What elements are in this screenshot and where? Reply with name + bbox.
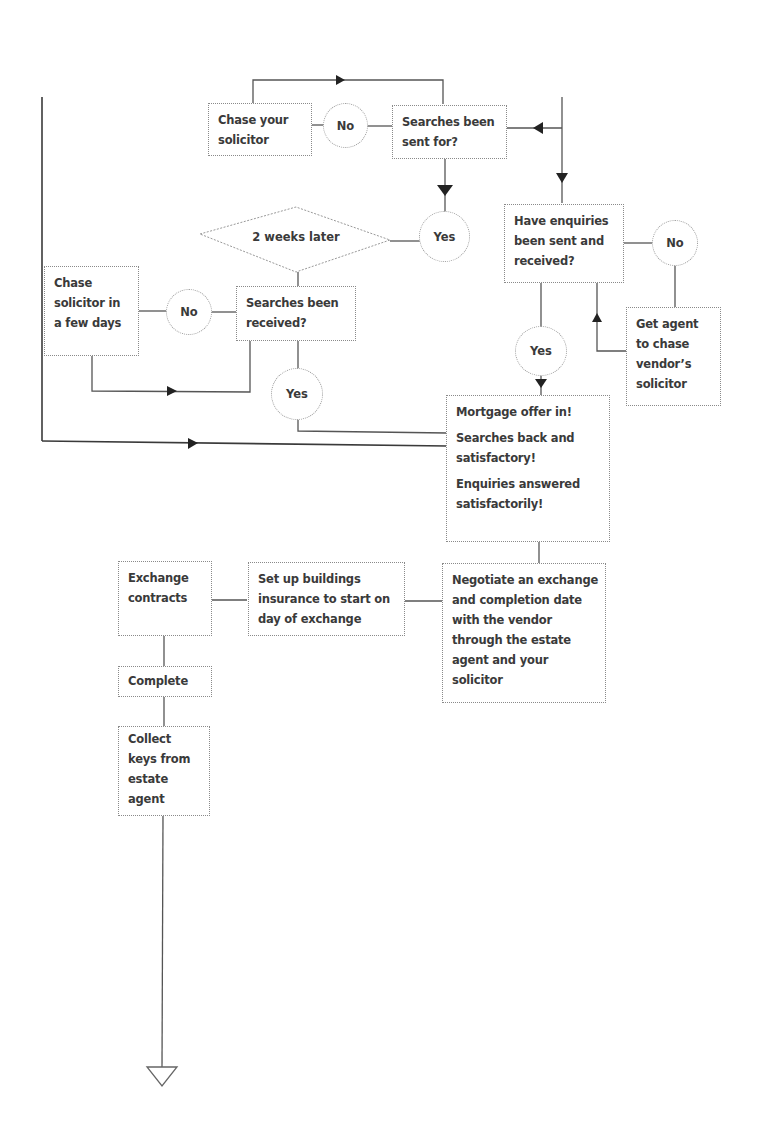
decision-yes-searches-received: Yes [271,368,323,420]
negotiate-dates-box: Negotiate an exchange and completion dat… [442,563,606,703]
node-text: Chase your [218,110,303,130]
decision-label: Yes [434,230,456,244]
buildings-insurance-box: Set up buildings insurance to start on d… [248,562,405,636]
node-text: with the vendor [452,610,597,630]
decision-yes-searches-sent: Yes [419,211,470,262]
collect-keys-box: Collect keys from estate agent [118,726,210,816]
arrow-up-icon [592,313,602,322]
node-text: Have enquiries [514,211,615,231]
node-text: Get agent [636,314,712,334]
decision-label: Yes [286,387,308,401]
chase-solicitor-few-days-box: Chase solicitor in a few days [44,266,139,356]
loop-top-line [253,80,443,104]
node-text: to chase [636,334,712,354]
arrow-down-icon [535,379,547,388]
summary-paragraph: Enquiries answered satisfactorily! [456,474,601,514]
node-text: solicitor in [54,293,130,313]
node-text: Set up buildings [258,569,396,589]
node-text: estate [128,769,201,789]
status-summary-box: Mortgage offer in! Searches back and sat… [446,395,610,542]
node-text: solicitor [218,130,303,150]
node-text: a few days [54,313,130,333]
node-text: Mortgage offer in! [456,402,601,422]
decision-no-searches-sent: No [323,103,368,148]
node-text: satisfactorily! [456,494,601,514]
decision-no-enquiries: No [652,220,698,266]
node-text: Chase [54,273,130,293]
node-text: agent [128,789,201,809]
complete-box: Complete [118,666,212,697]
node-text: vendor’s [636,354,712,374]
node-text: received? [246,313,347,333]
arrow-down-icon [556,173,568,183]
connector [162,816,163,1068]
flowchart-canvas: Chase your solicitor No Searches been se… [0,0,777,1143]
node-text: received? [514,251,615,271]
arrow-right-icon [167,386,177,396]
decision-label: No [666,236,684,250]
node-text: satisfactory! [456,448,601,468]
enquiries-sent-received-box: Have enquiries been sent and received? [504,204,624,283]
decision-no-searches-received: No [166,289,212,335]
decision-label: No [180,305,198,319]
chase-your-solicitor-box: Chase your solicitor [208,103,312,156]
node-text: Searches back and [456,428,601,448]
decision-yes-enquiries: Yes [515,326,567,376]
loop-agent-line [597,283,627,351]
two-weeks-later-label: 2 weeks later [226,230,366,244]
arrow-right-icon [336,75,345,85]
arrow-right-icon [188,438,198,449]
summary-paragraph: Mortgage offer in! [456,402,601,422]
left-loop-bottom-line [42,441,447,446]
node-text: agent and your [452,650,597,670]
node-text: solicitor [452,670,597,690]
node-text: insurance to start on [258,589,396,609]
node-text: Exchange [128,568,203,588]
node-text: solicitor [636,374,712,394]
arrow-down-icon [437,185,453,196]
node-text: been sent and [514,231,615,251]
node-text: Collect [128,729,201,749]
node-text: sent for? [402,132,498,152]
get-agent-chase-box: Get agent to chase vendor’s solicitor [626,307,721,406]
exchange-contracts-box: Exchange contracts [118,561,212,636]
node-text: Complete [128,671,203,691]
connector [298,418,447,433]
summary-paragraph: Searches back and satisfactory! [456,428,601,468]
node-text: day of exchange [258,609,396,629]
end-arrow-icon [147,1067,177,1086]
node-text: Searches been [246,293,347,313]
node-text: Enquiries answered [456,474,601,494]
decision-label: No [337,119,355,133]
node-text: keys from [128,749,201,769]
node-text: through the estate [452,630,597,650]
decision-label: Yes [530,344,552,358]
node-text: contracts [128,588,203,608]
node-text: and completion date [452,590,597,610]
arrow-left-icon [533,122,543,134]
node-text: Searches been [402,112,498,132]
node-text: Negotiate an exchange [452,570,597,590]
searches-received-box: Searches been received? [236,286,356,341]
searches-sent-for-box: Searches been sent for? [392,105,507,159]
